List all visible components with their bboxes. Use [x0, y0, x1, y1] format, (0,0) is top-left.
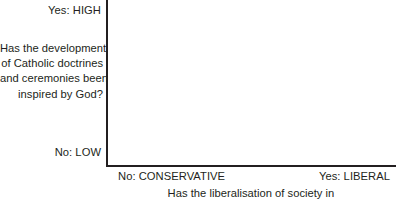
y-axis-title-line-3: and ceremonies been — [0, 71, 103, 86]
y-axis-top-tick-label: Yes: HIGH — [0, 3, 101, 17]
x-axis-title: Has the liberalisation of society in — [106, 186, 396, 199]
y-axis-title-line-4: inspired by God? — [0, 87, 103, 102]
y-axis-title-line-2: of Catholic doctrines — [0, 56, 103, 71]
y-axis-title: Has the development of Catholic doctrine… — [0, 41, 103, 102]
x-axis-left-tick-label: No: CONSERVATIVE — [118, 169, 225, 183]
quadrant-chart: Yes: HIGH No: LOW Has the development of… — [0, 0, 396, 199]
x-axis-line — [106, 165, 396, 167]
y-axis-bottom-tick-label: No: LOW — [0, 145, 101, 159]
x-axis-right-tick-label: Yes: LIBERAL — [319, 169, 390, 183]
y-axis-title-line-1: Has the development — [0, 41, 103, 56]
